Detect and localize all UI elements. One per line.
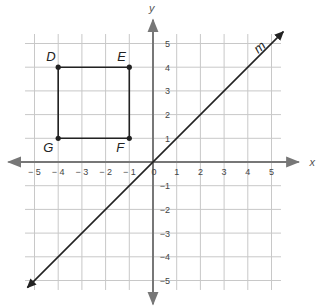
y-tick-label: −3 bbox=[160, 229, 170, 239]
x-tick-label: 3 bbox=[222, 167, 227, 177]
y-tick-label: 3 bbox=[165, 86, 170, 96]
y-tick-label: −2 bbox=[160, 205, 170, 215]
coordinate-plane: xy− 5− 4− 3− 2− 11234554321−1−2−3−4−50DE… bbox=[0, 0, 318, 308]
origin-label: 0 bbox=[151, 167, 156, 177]
y-tick-label: 2 bbox=[165, 110, 170, 120]
point-f bbox=[127, 136, 132, 141]
y-tick-label: 1 bbox=[165, 134, 170, 144]
x-tick-label: − 4 bbox=[52, 167, 65, 177]
point-e bbox=[127, 65, 132, 70]
line-m bbox=[27, 32, 283, 288]
point-label-g: G bbox=[43, 140, 53, 155]
line-m-label: m bbox=[250, 38, 268, 57]
point-g bbox=[56, 136, 61, 141]
point-label-d: D bbox=[46, 49, 55, 64]
x-tick-label: − 5 bbox=[28, 167, 41, 177]
x-tick-label: 1 bbox=[174, 167, 179, 177]
y-tick-label: 4 bbox=[165, 63, 170, 73]
x-tick-label: 2 bbox=[198, 167, 203, 177]
x-tick-label: − 1 bbox=[123, 167, 136, 177]
point-label-f: F bbox=[116, 140, 125, 155]
y-axis-label: y bbox=[148, 2, 156, 14]
x-tick-label: − 3 bbox=[76, 167, 89, 177]
square-defg bbox=[58, 67, 129, 138]
y-tick-label: −5 bbox=[160, 276, 170, 286]
x-tick-label: − 2 bbox=[99, 167, 112, 177]
point-d bbox=[56, 65, 61, 70]
x-tick-label: 4 bbox=[245, 167, 250, 177]
graph-canvas: xy− 5− 4− 3− 2− 11234554321−1−2−3−4−50DE… bbox=[0, 0, 318, 308]
y-tick-label: −1 bbox=[160, 181, 170, 191]
x-axis-label: x bbox=[308, 156, 315, 168]
y-tick-label: −4 bbox=[160, 252, 170, 262]
y-tick-label: 5 bbox=[165, 39, 170, 49]
x-tick-label: 5 bbox=[269, 167, 274, 177]
point-label-e: E bbox=[117, 49, 126, 64]
